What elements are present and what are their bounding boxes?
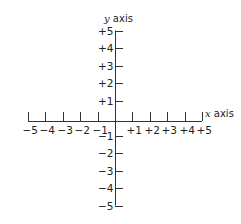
x-tick-label: −3 [58, 125, 73, 136]
y-tick-label: −3 [98, 166, 113, 177]
y-tick-label: +1 [98, 96, 113, 107]
y-tick-label: −5 [98, 201, 113, 212]
coordinate-diagram: y axis x axis −5−4−3−2−1+1+2+3+4+5 +5+4+… [0, 0, 241, 224]
y-tick-label: +4 [98, 43, 113, 54]
y-tick-label: +2 [98, 78, 113, 89]
y-axis-title: y axis [104, 13, 133, 24]
y-tick-label: −2 [98, 148, 113, 159]
x-tick-label: −2 [75, 125, 90, 136]
y-tick-label: +3 [98, 61, 113, 72]
y-tick-label: −4 [98, 183, 113, 194]
y-tick-label: −1 [98, 131, 113, 142]
x-tick-label: +1 [127, 125, 142, 136]
x-tick-label: −4 [40, 125, 55, 136]
x-tick-label: +5 [197, 125, 212, 136]
x-axis-title: x axis [205, 108, 234, 119]
x-tick-label: +4 [180, 125, 195, 136]
y-tick-label: +5 [98, 26, 113, 37]
x-tick-label: −5 [23, 125, 38, 136]
x-tick-label: +2 [145, 125, 160, 136]
x-tick-label: +3 [162, 125, 177, 136]
